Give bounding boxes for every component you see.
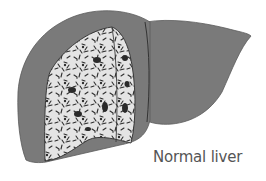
right-lobe — [146, 20, 251, 124]
figure-caption: Normal liver — [153, 148, 242, 166]
